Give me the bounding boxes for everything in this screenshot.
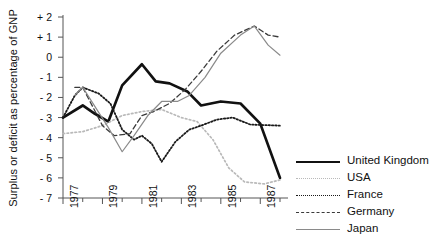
y-tick-label: - 3 (28, 112, 52, 124)
legend-label: USA (347, 171, 371, 184)
y-axis-label-wrap: Surplus or deficit as percentage of GNP (0, 0, 26, 215)
legend-item-france[interactable]: France (296, 186, 441, 203)
series-line-united-kingdom (63, 64, 280, 178)
x-tick-label: 1979 (107, 185, 119, 208)
chart-figure: Surplus or deficit as percentage of GNP … (0, 0, 441, 248)
legend-swatch (296, 206, 340, 218)
legend-swatch (296, 223, 340, 235)
legend-swatch (296, 172, 340, 184)
y-tick-label: - 7 (28, 192, 52, 204)
y-tick-label: - 6 (28, 172, 52, 184)
y-tick-label: - 1 (28, 71, 52, 83)
y-tick-label: + 1 (28, 31, 52, 43)
x-tick-label: 1983 (186, 185, 198, 208)
chart-legend: United KingdomUSAFranceGermanyJapan (296, 152, 441, 237)
y-tick-label: - 5 (28, 152, 52, 164)
y-axis-label: Surplus or deficit as percentage of GNP (7, 9, 19, 207)
y-tick-label: 0 (28, 51, 52, 63)
x-tick-label: 1977 (68, 185, 80, 208)
x-tick-label: 1985 (226, 185, 238, 208)
x-tick-label: 1987 (265, 185, 277, 208)
legend-swatch (296, 189, 340, 201)
legend-label: France (347, 188, 383, 201)
y-tick-label: - 2 (28, 91, 52, 103)
legend-label: United Kingdom (347, 154, 429, 167)
x-tick-label: 1981 (147, 185, 159, 208)
legend-item-united-kingdom[interactable]: United Kingdom (296, 152, 441, 169)
y-tick-label: + 2 (28, 11, 52, 23)
legend-label: Germany (347, 205, 394, 218)
legend-item-usa[interactable]: USA (296, 169, 441, 186)
y-tick-label: - 4 (28, 132, 52, 144)
legend-swatch (296, 155, 340, 167)
series-line-japan (75, 26, 280, 152)
legend-item-germany[interactable]: Germany (296, 203, 441, 220)
legend-label: Japan (347, 222, 378, 235)
legend-item-japan[interactable]: Japan (296, 220, 441, 237)
series-line-france (63, 87, 280, 161)
